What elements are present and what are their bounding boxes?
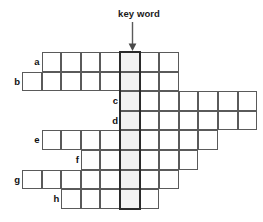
puzzle-cell[interactable] — [100, 72, 120, 92]
key-cell[interactable] — [120, 170, 140, 190]
puzzle-cell[interactable] — [179, 150, 199, 170]
puzzle-cell[interactable] — [140, 52, 160, 72]
puzzle-cell[interactable] — [22, 170, 42, 190]
puzzle-cell[interactable] — [218, 91, 238, 111]
puzzle-cell[interactable] — [159, 91, 179, 111]
key-cell[interactable] — [120, 52, 140, 72]
puzzle-cell[interactable] — [100, 189, 120, 209]
puzzle-cell[interactable] — [81, 150, 101, 170]
puzzle-cell[interactable] — [42, 170, 62, 190]
puzzle-cell[interactable] — [22, 72, 42, 92]
row-label-d: d — [104, 111, 118, 131]
puzzle-cell[interactable] — [238, 111, 258, 131]
row-label-a: a — [26, 52, 40, 72]
key-cell[interactable] — [120, 72, 140, 92]
puzzle-cell[interactable] — [238, 91, 258, 111]
puzzle-cell[interactable] — [61, 52, 81, 72]
puzzle-cell[interactable] — [81, 52, 101, 72]
key-cell[interactable] — [120, 150, 140, 170]
puzzle-cell[interactable] — [198, 130, 218, 150]
key-cell[interactable] — [120, 130, 140, 150]
puzzle-cell[interactable] — [61, 130, 81, 150]
puzzle-cell[interactable] — [198, 91, 218, 111]
puzzle-cell[interactable] — [61, 72, 81, 92]
puzzle-cell[interactable] — [42, 72, 62, 92]
key-cell[interactable] — [120, 111, 140, 131]
key-cell[interactable] — [120, 189, 140, 209]
puzzle-cell[interactable] — [179, 111, 199, 131]
puzzle-cell[interactable] — [159, 111, 179, 131]
row-label-f: f — [65, 150, 79, 170]
crossword-puzzle: key word abcdefgh — [0, 0, 263, 222]
puzzle-cell[interactable] — [218, 111, 238, 131]
puzzle-cell[interactable] — [198, 111, 218, 131]
row-label-c: c — [104, 91, 118, 111]
puzzle-cell[interactable] — [140, 130, 160, 150]
key-cell[interactable] — [120, 91, 140, 111]
puzzle-cell[interactable] — [61, 170, 81, 190]
puzzle-cell[interactable] — [100, 170, 120, 190]
puzzle-cell[interactable] — [100, 150, 120, 170]
puzzle-cell[interactable] — [140, 72, 160, 92]
puzzle-cell[interactable] — [42, 130, 62, 150]
puzzle-cell[interactable] — [140, 150, 160, 170]
row-label-e: e — [26, 130, 40, 150]
puzzle-cell[interactable] — [140, 111, 160, 131]
puzzle-cell[interactable] — [159, 72, 179, 92]
puzzle-cell[interactable] — [61, 189, 81, 209]
row-label-h: h — [45, 189, 59, 209]
puzzle-cell[interactable] — [179, 130, 199, 150]
puzzle-cell[interactable] — [100, 52, 120, 72]
puzzle-cell[interactable] — [159, 52, 179, 72]
puzzle-cell[interactable] — [179, 91, 199, 111]
puzzle-cell[interactable] — [81, 189, 101, 209]
puzzle-cell[interactable] — [159, 170, 179, 190]
puzzle-cell[interactable] — [140, 189, 160, 209]
puzzle-cell[interactable] — [81, 72, 101, 92]
puzzle-cell[interactable] — [159, 150, 179, 170]
puzzle-cell[interactable] — [140, 170, 160, 190]
row-label-b: b — [6, 72, 20, 92]
puzzle-cell[interactable] — [159, 130, 179, 150]
puzzle-cell[interactable] — [140, 91, 160, 111]
row-label-g: g — [6, 170, 20, 190]
crossword-grid: abcdefgh — [0, 0, 263, 222]
puzzle-cell[interactable] — [100, 130, 120, 150]
puzzle-cell[interactable] — [81, 170, 101, 190]
puzzle-cell[interactable] — [81, 130, 101, 150]
puzzle-cell[interactable] — [42, 52, 62, 72]
